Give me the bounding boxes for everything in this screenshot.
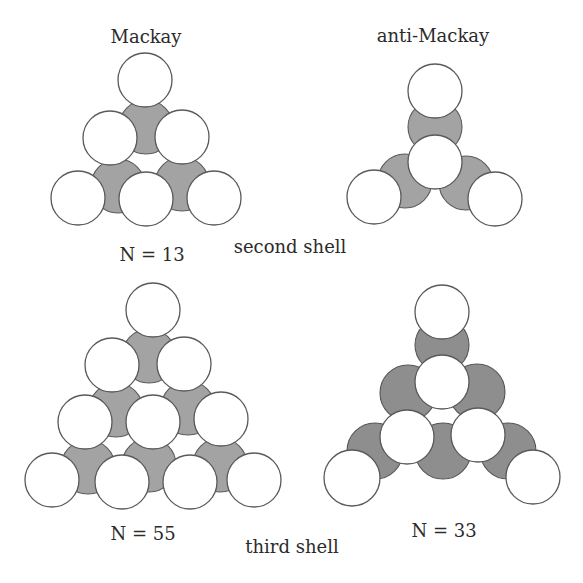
outer-atom (51, 171, 105, 225)
outer-atom (415, 285, 469, 339)
outer-atom (95, 455, 149, 509)
second-shell-label: second shell (234, 236, 347, 257)
mackay-third-count: N = 55 (110, 523, 175, 544)
cluster-diagram: Mackay anti-Mackay N = 13 second shell (0, 0, 583, 583)
outer-atom (415, 355, 469, 409)
outer-atom (324, 450, 380, 506)
outer-atom (347, 170, 401, 224)
outer-atom (194, 392, 248, 446)
third-shell-label: third shell (245, 536, 339, 557)
mackay-third-shell-cluster (25, 283, 281, 509)
outer-atom (506, 450, 560, 504)
anti-mackay-third-count: N = 33 (411, 520, 476, 541)
outer-atom (227, 453, 281, 507)
outer-atom (126, 395, 180, 449)
outer-atom (408, 135, 462, 189)
outer-atom (58, 395, 112, 449)
outer-atom (408, 64, 462, 118)
outer-atom (157, 337, 211, 391)
outer-atom (451, 408, 505, 462)
mackay-second-shell-cluster (51, 53, 241, 226)
outer-atom (380, 410, 434, 464)
outer-atom (85, 338, 139, 392)
anti-mackay-title: anti-Mackay (377, 25, 490, 46)
outer-atom (163, 455, 217, 509)
anti-mackay-second-shell-cluster (347, 64, 522, 226)
outer-atom (119, 172, 173, 226)
outer-atom (126, 283, 180, 337)
outer-atom (187, 171, 241, 225)
outer-atom (468, 172, 522, 226)
outer-atom (83, 111, 137, 165)
mackay-second-count: N = 13 (119, 244, 184, 265)
mackay-title: Mackay (110, 26, 182, 47)
outer-atom (118, 53, 172, 107)
outer-atom (25, 453, 79, 507)
anti-mackay-third-shell-cluster (324, 285, 560, 506)
outer-atom (155, 110, 209, 164)
